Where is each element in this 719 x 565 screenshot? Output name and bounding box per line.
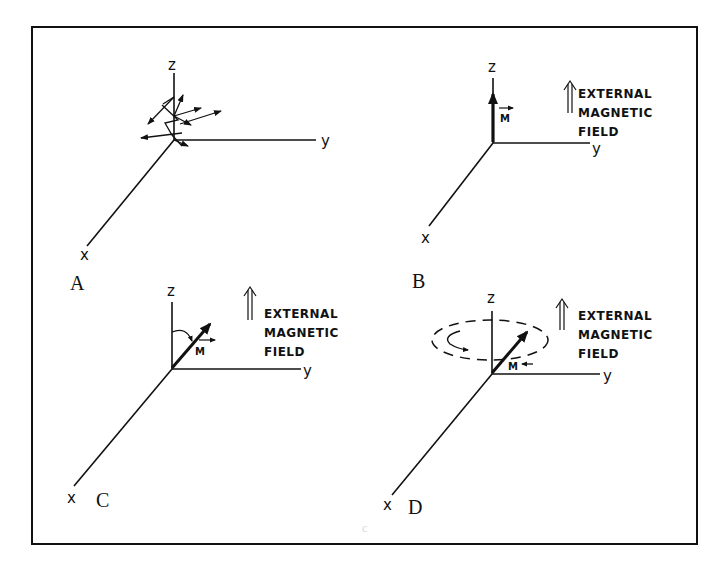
panel-c: z y x C M EXTERNAL MAGNETIC FIELD [67, 282, 339, 511]
panel-letter-b: B [412, 270, 425, 292]
panel-a: z y x A [70, 56, 330, 294]
panel-letter-a: A [70, 272, 85, 294]
random-spin-arrows-icon [141, 95, 221, 146]
panel-d: z y x D M EXTERNAL MAGNETIC FIELD [383, 289, 653, 518]
x-axis-label: x [80, 246, 89, 264]
external-field-double-arrow-icon [556, 299, 568, 330]
x-axis [87, 140, 174, 246]
panel-letter-c: C [96, 489, 109, 511]
x-axis-label: x [421, 229, 430, 247]
tip-angle-arc-icon [172, 330, 192, 341]
y-axis-label: y [603, 367, 612, 385]
x-axis-label: x [67, 489, 76, 507]
panel-b: z y x B M EXTERNAL MAGNETIC FIELD [412, 58, 653, 292]
field-label-line1: EXTERNAL [578, 309, 652, 323]
y-axis-label: y [321, 132, 330, 150]
external-field-double-arrow-icon [564, 81, 576, 113]
z-axis-label: z [167, 282, 175, 300]
z-axis-label: z [168, 56, 176, 74]
magnetization-label: M [500, 113, 510, 124]
y-axis-label: y [303, 362, 312, 380]
z-axis-label: z [488, 58, 496, 76]
panel-letter-d: D [408, 496, 422, 518]
stray-mark: c [362, 521, 367, 535]
figure-frame [32, 27, 697, 544]
field-label-line3: FIELD [264, 345, 305, 359]
z-axis-label: z [487, 289, 495, 307]
precession-path-dashed-ellipse [432, 320, 548, 360]
magnetization-label: M [195, 346, 205, 357]
mri-magnetization-figure: z y x A z y x B M [0, 0, 719, 565]
rotation-direction-arrow-icon [448, 331, 468, 350]
field-label-line2: MAGNETIC [578, 328, 653, 342]
y-axis-label: y [592, 140, 601, 158]
field-label-line1: EXTERNAL [264, 307, 338, 321]
field-label-line3: FIELD [578, 347, 619, 361]
field-label-line2: MAGNETIC [264, 326, 339, 340]
field-label-line1: EXTERNAL [578, 87, 652, 101]
field-label-line3: FIELD [578, 125, 619, 139]
x-axis [74, 369, 172, 486]
field-label-line2: MAGNETIC [578, 106, 653, 120]
x-axis [429, 143, 493, 226]
external-field-double-arrow-icon [244, 287, 256, 320]
x-axis-label: x [383, 496, 392, 514]
magnetization-label: M [508, 361, 518, 372]
x-axis [392, 374, 492, 495]
